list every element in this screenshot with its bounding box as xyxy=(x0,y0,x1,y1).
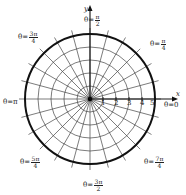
radial-tick-3: 3 xyxy=(127,100,131,107)
angle-label-pi-4: θ= π4 xyxy=(150,38,166,51)
angle-label-3pi-4: θ= 3π4 xyxy=(18,31,38,44)
angle-label-7pi-4: θ= 7π4 xyxy=(144,156,164,169)
ray-line xyxy=(90,38,126,99)
radial-tick-4: 4 xyxy=(140,100,144,107)
ray-line xyxy=(29,64,90,100)
radial-tick-1: 1 xyxy=(101,100,105,107)
y-axis-label: y xyxy=(84,6,88,13)
angle-label-pi-2: θ= π2 xyxy=(84,14,100,27)
axes xyxy=(88,5,179,102)
ray-line xyxy=(90,30,108,99)
ray-line xyxy=(90,64,151,100)
ray-line xyxy=(55,99,91,160)
y-axis-arrow-icon xyxy=(88,5,93,11)
ray-line xyxy=(72,30,90,99)
radial-tick-2: 2 xyxy=(114,100,118,107)
angle-label-3pi-2: θ= 3π2 xyxy=(83,179,103,192)
angle-label-5pi-4: θ= 5π4 xyxy=(20,156,40,169)
ray-line xyxy=(29,99,90,135)
x-axis-label: x xyxy=(176,91,180,98)
ray-line xyxy=(21,99,90,117)
ray-line xyxy=(90,81,159,99)
angle-label-pi: θ=π xyxy=(3,99,18,106)
ray-line xyxy=(55,38,91,99)
ray-line xyxy=(21,81,90,99)
ray-line xyxy=(90,99,126,160)
radial-tick-5: 5 xyxy=(150,100,154,107)
angle-label-0: θ=0 xyxy=(164,102,179,109)
ray-line xyxy=(72,99,90,168)
ray-line xyxy=(90,99,108,168)
